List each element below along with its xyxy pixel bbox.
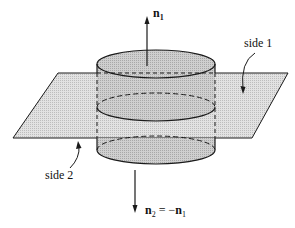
- label-side2: side 2: [45, 168, 73, 182]
- diagram: n1 n2 = −n1 side 1 side 2: [0, 0, 295, 228]
- side2-pointer: [70, 146, 79, 168]
- label-side1: side 1: [244, 36, 272, 50]
- label-n1: n1: [153, 6, 164, 22]
- cylinder-top: [97, 50, 215, 78]
- normal-n2-arrow: [133, 170, 138, 213]
- label-n2-eq: n2 = −n1: [145, 203, 186, 219]
